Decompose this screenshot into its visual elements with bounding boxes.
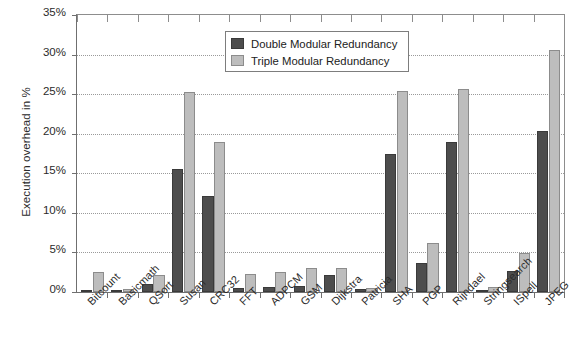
y-tick-label: 35% (26, 6, 66, 18)
x-tick-label-susan: Susan (177, 277, 208, 308)
x-tick-label-qsort: QSort (146, 278, 175, 307)
legend-item-dmr: Double Modular Redundancy (231, 35, 404, 52)
x-tick-label-dijkstra: Dijkstra (329, 273, 364, 308)
y-tick-label: 25% (26, 85, 66, 97)
x-tick-label-sha: SHA (390, 283, 415, 308)
y-tick-label: 0% (26, 283, 66, 295)
x-tick-label-patricia: Patricia (359, 272, 394, 307)
y-tick-label: 15% (26, 164, 66, 176)
y-tick-label: 5% (26, 243, 66, 255)
legend-label-dmr: Double Modular Redundancy (251, 38, 397, 50)
chart-legend: Double Modular Redundancy Triple Modular… (225, 31, 409, 72)
x-tick-label-ispell: ISpell (511, 279, 539, 307)
x-tick-label-gsm: GSM (298, 281, 324, 307)
y-tick-label: 10% (26, 204, 66, 216)
x-tick-label-pgp: PGP (420, 282, 445, 307)
legend-swatch-tmr (231, 55, 244, 66)
legend-item-tmr: Triple Modular Redundancy (231, 52, 404, 69)
x-tick-label-rijndael: Rijndael (450, 270, 487, 307)
legend-swatch-dmr (231, 38, 244, 49)
x-tick-label-jpeg: JPEG (542, 278, 571, 307)
y-tick-label: 20% (26, 125, 66, 137)
x-tick-label-fft: FFT (237, 285, 260, 308)
bar-chart: Execution overhead in % BitcountBasicmat… (0, 0, 572, 364)
x-tick-label-bitcount: Bitcount (85, 270, 122, 307)
legend-label-tmr: Triple Modular Redundancy (251, 55, 389, 67)
x-tick-label-crc32: CRC32 (207, 273, 241, 307)
y-tick-label: 30% (26, 46, 66, 58)
x-tick-label-adpcm: ADPCM (268, 271, 305, 308)
